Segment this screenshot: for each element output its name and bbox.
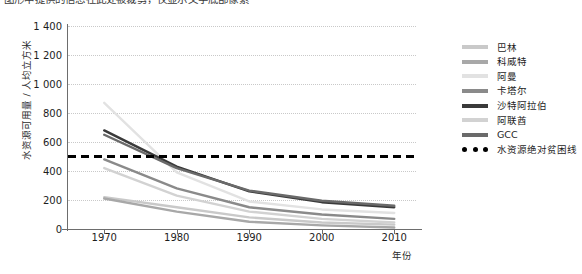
legend-item[interactable]: 水资源绝对贫困线 — [462, 142, 580, 157]
legend-item[interactable]: 科威特 — [462, 55, 580, 70]
legend-label: 水资源绝对贫困线 — [497, 145, 577, 155]
legend-label: GCC — [497, 130, 518, 140]
legend-item[interactable]: 卡塔尔 — [462, 84, 580, 99]
legend-item[interactable]: 沙特阿拉伯 — [462, 98, 580, 113]
legend-item[interactable]: GCC — [462, 128, 580, 143]
y-tick-label: 400 — [18, 166, 62, 177]
x-tick-mark — [177, 229, 178, 234]
x-tick-mark — [249, 229, 250, 234]
legend-label: 阿联酋 — [497, 116, 527, 126]
y-tick-label: 1 400 — [18, 21, 62, 32]
figure-caption: 图形中提供的信息在此处被裁剪，仅显示文字底部像素 — [4, 0, 434, 4]
y-tick-label: 0 — [18, 224, 62, 235]
legend-item[interactable]: 阿联酋 — [462, 113, 580, 128]
legend-color-swatch — [462, 60, 488, 64]
legend-dotted-swatch — [462, 147, 488, 152]
x-tick-mark — [104, 229, 105, 234]
legend-label: 沙特阿拉伯 — [497, 101, 547, 111]
y-axis-tick-labels: 1 4001 2001 0008006004002000 — [18, 0, 62, 274]
legend-color-swatch — [462, 74, 488, 78]
legend-color-swatch — [462, 118, 488, 122]
legend-color-swatch — [462, 133, 488, 137]
y-tick-label: 800 — [18, 108, 62, 119]
legend-color-swatch — [462, 45, 488, 49]
chart-figure: 图形中提供的信息在此处被裁剪，仅显示文字底部像素 水资源可用量 / 人均立方米 … — [0, 0, 582, 274]
y-tick-label: 1 200 — [18, 50, 62, 61]
legend-color-swatch — [462, 104, 488, 108]
chart-legend: 巴林科威特阿曼卡塔尔沙特阿拉伯阿联酋GCC水资源绝对贫困线 — [462, 40, 580, 157]
legend-label: 阿曼 — [497, 72, 517, 82]
plot-area: 19701980199020002010 — [68, 26, 416, 229]
legend-color-swatch — [462, 89, 488, 93]
legend-label: 巴林 — [497, 43, 517, 53]
series-lines — [68, 26, 416, 229]
x-tick-mark — [322, 229, 323, 234]
legend-item[interactable]: 巴林 — [462, 40, 580, 55]
y-tick-label: 600 — [18, 137, 62, 148]
series-line — [104, 130, 394, 207]
x-tick-mark — [394, 229, 395, 234]
y-tick-label: 1 000 — [18, 79, 62, 90]
y-tick-label: 200 — [18, 195, 62, 206]
legend-item[interactable]: 阿曼 — [462, 69, 580, 84]
legend-label: 科威特 — [497, 57, 527, 67]
x-axis-title: 年份 — [392, 248, 412, 262]
legend-label: 卡塔尔 — [497, 86, 527, 96]
